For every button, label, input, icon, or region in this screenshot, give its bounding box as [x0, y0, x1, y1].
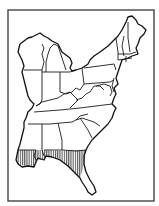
range-map: Eastern United States — [0, 0, 159, 206]
border-oh-wv — [60, 84, 84, 94]
border-al-ga — [58, 123, 62, 150]
border-ma — [118, 52, 136, 54]
border-pa-south — [84, 80, 114, 84]
border-il-in — [36, 70, 42, 106]
border-nh-me — [128, 22, 130, 52]
border-nc-sc — [76, 118, 100, 126]
border-oh-pa — [82, 68, 84, 84]
border-michigan — [46, 44, 66, 72]
border-vt-nh — [122, 36, 124, 56]
border-pa-ny — [84, 64, 116, 70]
map-svg — [0, 0, 159, 206]
border-ky-va — [70, 100, 78, 108]
border-wv-va — [76, 86, 104, 100]
border-lake-michigan-west — [42, 44, 44, 70]
border-ny-vt — [116, 38, 118, 60]
